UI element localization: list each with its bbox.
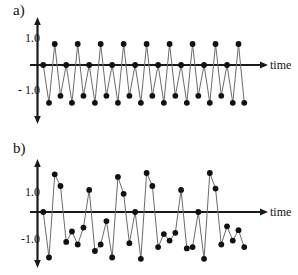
panel-b-yaxis-arrow-down [34, 260, 41, 268]
data-point [224, 223, 230, 229]
data-point [241, 100, 247, 106]
data-point [75, 242, 81, 248]
data-point [121, 191, 127, 197]
data-point [132, 209, 138, 215]
data-point [155, 62, 161, 68]
data-point [149, 93, 155, 99]
panel-a-yaxis-arrow-down [34, 116, 41, 124]
data-point [81, 93, 87, 99]
data-point [213, 41, 219, 47]
data-point [236, 41, 242, 47]
data-point [161, 100, 167, 106]
panel-b-yaxis-arrow-up [34, 159, 41, 167]
data-point [46, 100, 52, 106]
data-point [52, 41, 58, 47]
data-point [126, 93, 132, 99]
data-point [132, 62, 138, 68]
data-point [104, 218, 110, 224]
data-point [69, 100, 75, 106]
data-point [98, 242, 104, 248]
data-point [109, 62, 115, 68]
data-point [172, 93, 178, 99]
data-point [207, 170, 213, 176]
data-point [184, 100, 190, 106]
data-point [115, 174, 121, 180]
data-point [138, 100, 144, 106]
data-point [190, 41, 196, 47]
data-point [144, 41, 150, 47]
data-point [178, 62, 184, 68]
data-point [121, 41, 127, 47]
data-point [172, 230, 178, 236]
data-point [230, 100, 236, 106]
data-point [98, 41, 104, 47]
panel-b-plot [0, 137, 298, 275]
data-point [63, 239, 69, 245]
data-point [161, 231, 167, 237]
data-point [195, 209, 201, 215]
data-point [241, 244, 247, 250]
data-point [109, 255, 115, 261]
data-point [58, 183, 64, 189]
data-point [104, 93, 110, 99]
data-point [224, 62, 230, 68]
data-point [218, 242, 224, 248]
data-point [236, 227, 242, 233]
data-point [195, 93, 201, 99]
data-point [184, 246, 190, 252]
data-point [58, 93, 64, 99]
data-line [43, 173, 244, 259]
panel-a-xaxis-arrow [260, 62, 268, 69]
figure-container: a) 1.0 - 1.0 time b) 1.0 -1.0 time [0, 0, 298, 275]
data-point [230, 238, 236, 244]
data-point [92, 248, 98, 254]
panel-a-yaxis-arrow-up [34, 17, 41, 25]
data-point [52, 171, 58, 177]
data-point [63, 62, 69, 68]
data-line [43, 44, 244, 103]
data-point [40, 209, 46, 215]
data-point [167, 238, 173, 244]
data-point [167, 41, 173, 47]
data-point [126, 240, 132, 246]
data-point [201, 256, 207, 262]
data-point [190, 244, 196, 250]
panel-a: a) 1.0 - 1.0 time [0, 0, 298, 137]
panel-b-xaxis-arrow [260, 209, 268, 216]
panel-a-series [40, 41, 247, 106]
data-point [86, 187, 92, 193]
data-point [75, 41, 81, 47]
panel-b-series [40, 170, 247, 262]
panel-b: b) 1.0 -1.0 time [0, 137, 298, 275]
data-point [81, 225, 87, 231]
data-point [69, 229, 75, 235]
data-point [138, 256, 144, 262]
panel-a-plot [0, 0, 298, 137]
data-point [207, 100, 213, 106]
data-point [92, 100, 98, 106]
data-point [155, 244, 161, 250]
data-point [149, 183, 155, 189]
data-point [213, 186, 219, 192]
data-point [40, 62, 46, 68]
data-point [144, 170, 150, 176]
data-point [218, 93, 224, 99]
data-point [46, 255, 52, 261]
data-point [86, 62, 92, 68]
data-point [178, 187, 184, 193]
data-point [115, 100, 121, 106]
data-point [201, 62, 207, 68]
